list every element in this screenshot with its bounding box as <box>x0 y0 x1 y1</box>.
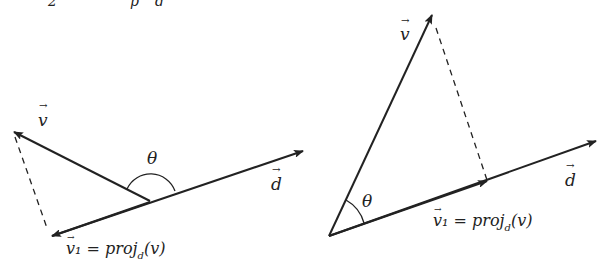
right-v-label: v <box>400 24 410 44</box>
top-fragment-d: d <box>155 0 164 9</box>
left-theta-label: θ <box>147 148 157 168</box>
left-v1-label: v₁ = projd(v) <box>66 239 165 261</box>
left-diagram: θ v → d → v₁ = projd(v) → <box>14 100 303 261</box>
right-d-label: d <box>565 170 576 190</box>
top-fragment-2: 2 <box>47 0 57 9</box>
right-v1-label: v₁ = projd(v) <box>433 211 532 233</box>
right-d-arrow-accent: → <box>566 160 575 171</box>
right-v-arrow-accent: → <box>401 15 410 26</box>
left-d-label: d <box>271 174 282 194</box>
left-theta-arc <box>127 174 175 191</box>
right-dashed-perpendicular <box>436 28 487 180</box>
top-fragment-proj: p <box>130 0 139 9</box>
left-d-arrow-accent: → <box>272 164 281 175</box>
left-v-label: v <box>38 110 48 130</box>
left-v-arrow-accent: → <box>39 100 48 111</box>
right-theta-label: θ <box>362 191 372 211</box>
right-diagram: θ v → d → v₁ = projd(v) → <box>329 15 596 236</box>
right-v-vector <box>329 15 432 236</box>
left-v1-vector <box>52 202 150 236</box>
right-v1-arrow-accent: → <box>434 204 442 214</box>
left-dashed-perpendicular <box>15 137 47 228</box>
left-v1-arrow-accent: → <box>67 232 75 242</box>
projection-diagram: 2 p d θ v → d → v₁ = projd(v) → θ v → d … <box>0 0 599 269</box>
